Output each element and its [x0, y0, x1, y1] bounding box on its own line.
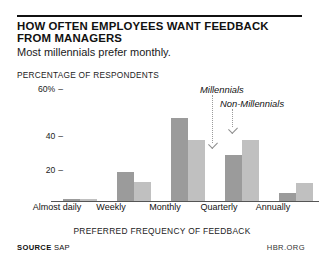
annotation-non-millennials: Non-Millennials: [220, 98, 284, 109]
x-label-almost-daily: Almost daily: [28, 203, 86, 213]
bar-group-weekly: [111, 82, 157, 201]
chart-card: HOW OFTEN EMPLOYEES WANT FEEDBACK FROM M…: [0, 0, 319, 271]
y-tick-40-label: 40: [46, 131, 56, 141]
x-label-weekly: Weekly: [82, 203, 140, 213]
bar-non-millennials-quarterly: [242, 140, 259, 201]
bar-non-millennials-weekly: [134, 182, 151, 201]
source-label: SOURCE: [17, 243, 52, 252]
page-subtitle: Most millennials prefer monthly.: [17, 46, 297, 59]
y-tick-20-label: 20: [46, 165, 56, 175]
bar-group-monthly: [165, 82, 211, 201]
source-value: SAP: [54, 243, 70, 252]
top-rule: [17, 15, 302, 17]
bar-millennials-annually: [279, 193, 296, 201]
brand-label: HBR.ORG: [267, 243, 305, 252]
bar-group-almost-daily: [57, 82, 103, 201]
bar-non-millennials-annually: [296, 183, 313, 201]
y-axis-label: PERCENTAGE OF RESPONDENTS: [17, 70, 159, 80]
x-axis-tick-labels: Almost daily Weekly Monthly Quarterly An…: [17, 203, 307, 227]
y-tick-60-label: 60%: [38, 84, 55, 94]
annotation-millennials: Millennials: [200, 84, 244, 95]
x-label-quarterly: Quarterly: [190, 203, 248, 213]
x-label-monthly: Monthly: [136, 203, 194, 213]
x-label-annually: Annually: [244, 203, 302, 213]
bar-millennials-monthly: [171, 118, 188, 201]
bar-millennials-quarterly: [225, 155, 242, 201]
bar-non-millennials-monthly: [188, 140, 205, 201]
source-note: SOURCE SAP: [17, 243, 70, 252]
leader-line-millennials: [212, 95, 213, 143]
bar-millennials-weekly: [117, 172, 134, 201]
page-title: HOW OFTEN EMPLOYEES WANT FEEDBACK FROM M…: [17, 20, 287, 45]
x-axis-title: PREFERRED FREQUENCY OF FEEDBACK: [17, 226, 307, 236]
